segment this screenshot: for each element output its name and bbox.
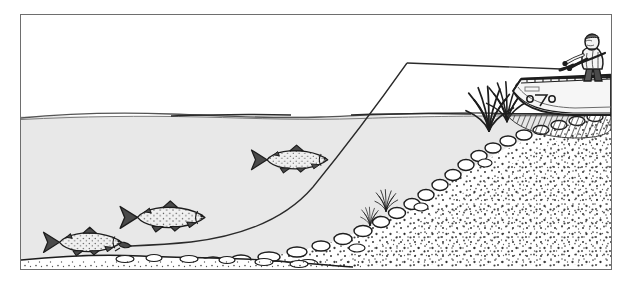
illustration-frame xyxy=(20,14,612,270)
fishing-illustration xyxy=(21,15,611,269)
illustration-scene xyxy=(0,0,632,286)
